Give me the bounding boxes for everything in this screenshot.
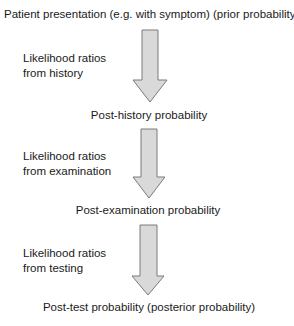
label-line: from testing	[23, 261, 106, 276]
post-examination-node: Post-examination probability	[1, 203, 294, 217]
testing-lr-label: Likelihood ratios from testing	[23, 246, 106, 276]
label-line: from examination	[23, 164, 111, 179]
label-line: from history	[23, 66, 106, 81]
examination-lr-label: Likelihood ratios from examination	[23, 149, 111, 179]
history-lr-label: Likelihood ratios from history	[23, 51, 106, 81]
label-line: Likelihood ratios	[23, 149, 111, 164]
down-arrow-icon	[133, 30, 167, 102]
post-history-node: Post-history probability	[2, 108, 294, 122]
post-test-node: Post-test probability (posterior probabi…	[2, 300, 294, 314]
label-line: Likelihood ratios	[23, 246, 106, 261]
down-arrow-icon	[133, 129, 165, 198]
label-line: Likelihood ratios	[23, 51, 106, 66]
down-arrow-icon	[132, 225, 164, 295]
